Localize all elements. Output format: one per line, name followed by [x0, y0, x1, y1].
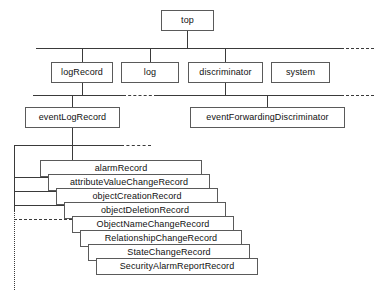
node-eventforwardingdiscriminator: eventForwardingDiscriminator: [190, 107, 345, 128]
node-discriminator: discriminator: [188, 62, 263, 83]
connector-record-spine-dotted: [14, 210, 15, 290]
connector-record-branch-3: [14, 191, 56, 192]
connector-drop-logrecord: [82, 48, 83, 62]
connector-record-branch-dashed: [14, 219, 72, 220]
connector-drop-discriminator: [225, 48, 226, 62]
node-logrecord: logRecord: [51, 62, 113, 83]
connector-record-bus-top: [14, 145, 121, 146]
connector-record-branch-2: [14, 177, 48, 178]
node-securityalarmreportrecord: SecurityAlarmReportRecord: [96, 258, 258, 275]
connector-record-bus-top-dashed: [121, 145, 151, 146]
connector-drop-log: [150, 48, 151, 62]
node-system: system: [271, 62, 330, 83]
connector-drop-eventlogrecord: [72, 95, 73, 107]
node-top: top: [161, 10, 214, 31]
node-eventlogrecord: eventLogRecord: [25, 107, 120, 128]
connector-record-branch-4: [14, 205, 64, 206]
connector-bus-level3-right-dashed: [341, 95, 374, 96]
connector-bus-level3-left: [33, 95, 123, 96]
connector-logrecord-stem: [82, 83, 83, 95]
connector-top-stem: [187, 31, 188, 48]
connector-drop-eventforwardingdiscriminator: [267, 95, 268, 107]
class-hierarchy-diagram: top logRecord log discriminator system e…: [0, 0, 374, 305]
node-log: log: [121, 62, 179, 83]
connector-bus-level3-right: [157, 95, 341, 96]
connector-bus-level2-dashed: [341, 48, 374, 49]
connector-discriminator-stem: [225, 83, 226, 95]
connector-bus-level3-left-dashed: [123, 95, 157, 96]
